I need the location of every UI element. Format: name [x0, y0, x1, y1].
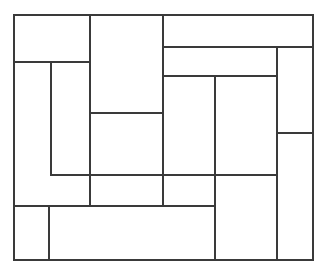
piece-lower-right-tall	[215, 175, 277, 260]
piece-far-right-upper	[277, 47, 313, 133]
diagram-canvas	[0, 0, 330, 272]
piece-mid-right-right-col	[215, 76, 277, 175]
piece-bottom-wide	[49, 206, 215, 260]
piece-top-center	[90, 15, 163, 113]
piece-top-left	[14, 15, 90, 62]
rectangle-dissection-diagram	[0, 0, 330, 272]
piece-left-tall	[14, 62, 51, 206]
piece-bottom-left-small	[14, 206, 49, 260]
piece-right-upper-wide	[163, 47, 277, 76]
piece-top-right-band	[163, 15, 313, 47]
piece-far-right-lower	[277, 133, 313, 260]
piece-mid-right-left-col	[163, 76, 215, 175]
piece-center-lower	[90, 113, 163, 175]
piece-left-inner-tall	[51, 62, 90, 175]
piece-mid-horizontal-band	[51, 175, 215, 206]
